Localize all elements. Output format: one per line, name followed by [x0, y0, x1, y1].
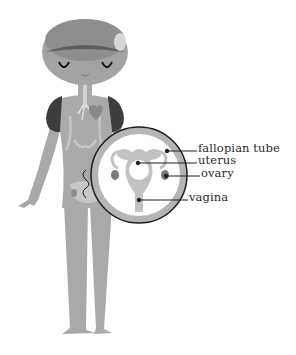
magnified-inset: [91, 127, 187, 223]
reproductive-system-illustration: [0, 0, 296, 355]
head: [42, 19, 128, 85]
legs: [62, 205, 112, 334]
left-arm: [18, 122, 60, 208]
label-vagina: vagina: [189, 192, 228, 204]
left-ovary: [111, 170, 119, 180]
label-uterus: uterus: [198, 155, 236, 167]
label-ovary: ovary: [201, 168, 234, 180]
